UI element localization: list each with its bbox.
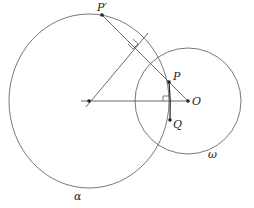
perpendicular-bisector — [86, 33, 148, 107]
point-alpha-center — [87, 99, 91, 103]
label-O: O — [192, 95, 201, 108]
point-Q — [168, 118, 172, 122]
line-Pprime-to-O — [102, 15, 188, 101]
geometry-diagram: P′ P O Q ω α — [0, 0, 254, 208]
point-P — [167, 80, 171, 84]
label-Q: Q — [173, 118, 182, 131]
label-P-prime: P′ — [96, 1, 107, 14]
point-O — [186, 99, 190, 103]
right-angle-marker-top — [128, 39, 138, 49]
label-alpha: α — [74, 190, 82, 203]
label-P: P — [172, 70, 181, 83]
label-omega: ω — [208, 148, 217, 161]
